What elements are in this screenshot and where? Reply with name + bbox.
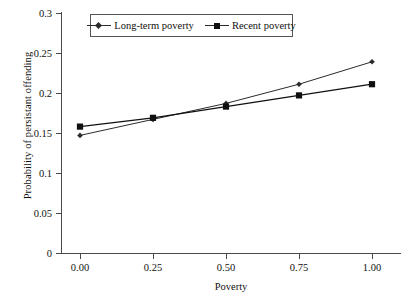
y-tick-mark — [56, 173, 61, 174]
diamond-marker-icon — [87, 21, 111, 31]
data-point-square — [296, 92, 302, 98]
data-point-diamond — [77, 133, 83, 139]
y-tick-label: 0.1 — [0, 168, 52, 179]
y-tick-mark — [56, 253, 61, 254]
data-point-diamond — [369, 59, 375, 65]
legend-item-recent-poverty[interactable]: Recent poverty — [205, 20, 296, 31]
y-tick-label: 0 — [0, 248, 52, 259]
y-tick-mark — [56, 13, 61, 14]
x-axis-title: Poverty — [62, 281, 400, 292]
legend-label-recent-poverty: Recent poverty — [232, 20, 296, 31]
y-tick-mark — [56, 133, 61, 134]
series-1 — [77, 59, 375, 138]
square-marker-icon — [205, 21, 229, 31]
data-point-square — [369, 81, 375, 87]
y-tick-label: 0.25 — [0, 48, 52, 59]
chart-figure: Probability of persistant offending Pove… — [0, 0, 412, 300]
x-tick-label: 1.00 — [349, 262, 395, 273]
series-line — [80, 62, 372, 136]
data-point-square — [223, 104, 229, 110]
x-tick-mark — [372, 254, 373, 259]
y-tick-label: 0.2 — [0, 88, 52, 99]
x-tick-mark — [80, 254, 81, 259]
x-tick-label: 0.25 — [130, 262, 176, 273]
data-point-diamond — [150, 117, 156, 123]
legend-label-long-term-poverty: Long-term poverty — [114, 20, 194, 31]
y-axis-line — [61, 12, 62, 254]
data-point-square — [77, 124, 83, 130]
chart-legend: Long-term poverty Recent poverty — [90, 14, 293, 37]
y-tick-label: 0.05 — [0, 208, 52, 219]
x-tick-mark — [153, 254, 154, 259]
x-tick-label: 0.50 — [203, 262, 249, 273]
x-axis-line — [61, 253, 401, 254]
y-tick-mark — [56, 213, 61, 214]
data-point-square — [150, 115, 156, 121]
y-tick-label: 0.3 — [0, 8, 52, 19]
y-tick-label: 0.15 — [0, 128, 52, 139]
series-line — [80, 84, 372, 126]
data-point-diamond — [223, 101, 229, 107]
y-tick-mark — [56, 53, 61, 54]
x-tick-label: 0.75 — [276, 262, 322, 273]
data-point-diamond — [296, 81, 302, 87]
legend-item-long-term-poverty[interactable]: Long-term poverty — [87, 20, 194, 31]
x-tick-label: 0.00 — [57, 262, 103, 273]
x-tick-mark — [226, 254, 227, 259]
series-2 — [77, 81, 375, 130]
y-tick-mark — [56, 93, 61, 94]
x-tick-mark — [299, 254, 300, 259]
